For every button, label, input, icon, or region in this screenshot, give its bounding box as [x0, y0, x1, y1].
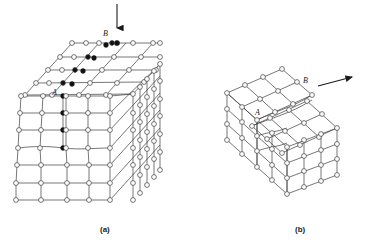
panel-b-top-face	[227, 69, 337, 153]
panel-b-label-b: B	[303, 76, 308, 85]
panel-b-label-a: A	[254, 108, 260, 117]
shear-arrow-upright-icon	[318, 77, 352, 86]
panel-a-label-a: A	[51, 88, 57, 97]
caption-b: (b)	[295, 225, 305, 234]
panel-a-edge-dislocation: B A	[14, 4, 163, 202]
dislocation-figure: B A	[0, 0, 384, 251]
panel-b-right-face	[287, 128, 337, 194]
figure-page: B A	[0, 0, 384, 251]
caption-a: (a)	[100, 225, 110, 234]
panel-a-label-b: B	[103, 29, 108, 38]
panel-b-screw-dislocation: B A	[225, 67, 352, 197]
